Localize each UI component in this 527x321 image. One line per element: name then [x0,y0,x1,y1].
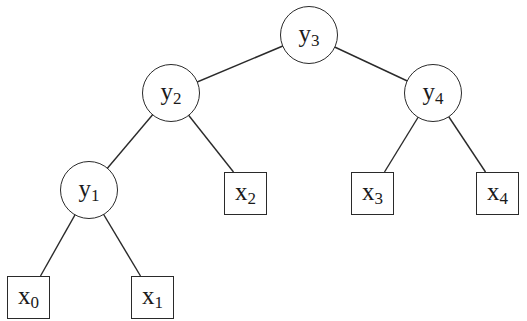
node-y1: y1 [60,161,118,219]
node-label-subscript: 1 [91,186,100,205]
node-label-subscript: 2 [173,89,182,108]
node-label-base: x [235,178,248,205]
node-x3: x3 [351,172,394,215]
node-label: y2 [161,78,182,109]
node-label: y4 [423,78,444,109]
node-x1: x1 [131,276,174,319]
node-label-subscript: 1 [155,293,164,312]
node-label-base: y [79,175,92,202]
node-label-subscript: 0 [31,293,40,312]
node-label: x0 [18,282,39,313]
node-label-base: x [362,178,375,205]
node-label: y1 [79,175,100,206]
node-y2: y2 [142,64,200,122]
node-y3: y3 [280,6,338,64]
node-label-subscript: 4 [435,89,444,108]
node-label-subscript: 2 [248,189,257,208]
node-x2: x2 [224,172,267,215]
node-label: x2 [235,178,256,209]
node-label-base: x [142,282,155,309]
node-label-subscript: 3 [375,189,384,208]
node-x4: x4 [476,172,519,215]
node-label: y3 [299,20,320,51]
node-label-subscript: 4 [500,189,509,208]
node-y4: y4 [404,64,462,122]
node-label-base: y [299,20,312,47]
node-label-base: y [423,78,436,105]
node-label-subscript: 3 [311,31,320,50]
node-label-base: x [18,282,31,309]
node-label-base: x [487,178,500,205]
node-label: x1 [142,282,163,313]
node-label: x3 [362,178,383,209]
tree-edges [0,0,527,321]
node-label-base: y [161,78,174,105]
node-label: x4 [487,178,508,209]
node-x0: x0 [7,276,50,319]
